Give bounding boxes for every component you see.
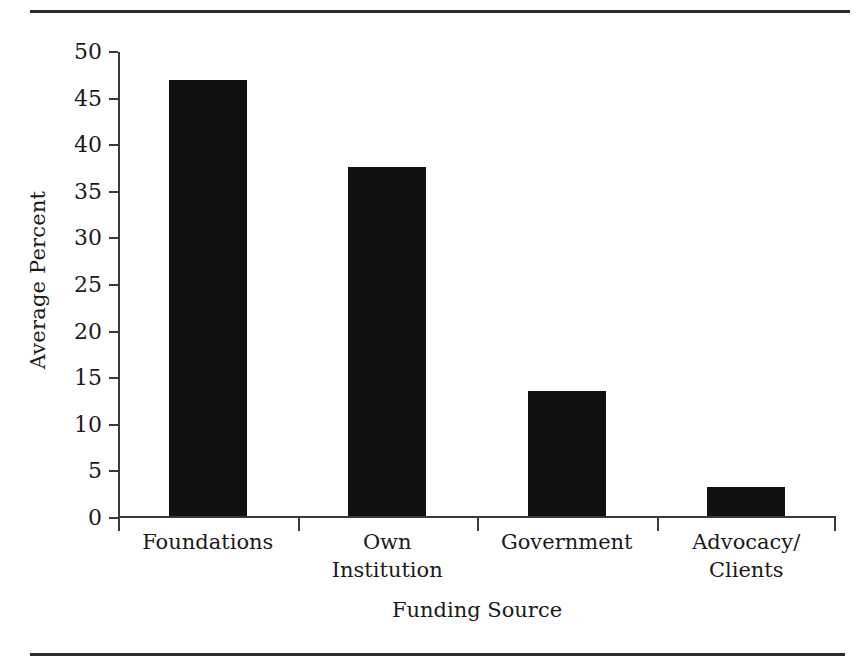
y-axis-tick-label: 15 xyxy=(72,367,109,389)
x-axis-category-label: Foundations xyxy=(118,528,298,556)
x-axis-category-label-line1: Own xyxy=(363,530,412,554)
y-axis-tick: 50 xyxy=(72,41,118,63)
y-axis-tick-mark xyxy=(109,98,118,100)
y-axis-tick: 30 xyxy=(72,227,118,249)
bar xyxy=(348,167,426,516)
y-axis-tick-label: 25 xyxy=(72,274,109,296)
y-axis-tick: 35 xyxy=(72,181,118,203)
y-axis-title: Average Percent xyxy=(26,150,50,410)
y-axis-tick-label: 40 xyxy=(72,134,109,156)
y-axis-tick: 40 xyxy=(72,134,118,156)
y-axis-tick-label: 45 xyxy=(72,88,109,110)
y-axis-tick: 5 xyxy=(72,460,118,482)
x-axis-category-labels: FoundationsOwnInstitutionGovernmentAdvoc… xyxy=(118,528,836,598)
x-axis-category-label-line2: Institution xyxy=(298,556,478,584)
y-axis-tick-mark xyxy=(109,331,118,333)
y-axis-tick: 45 xyxy=(72,88,118,110)
y-axis-tick-label: 50 xyxy=(72,41,109,63)
bar xyxy=(528,391,606,516)
y-axis-tick-mark xyxy=(109,51,118,53)
y-axis-tick: 15 xyxy=(72,367,118,389)
y-axis-tick: 0 xyxy=(72,507,118,529)
bar xyxy=(707,487,785,516)
figure-bar-chart: Average Percent 50454035302520151050 Fou… xyxy=(0,0,864,670)
y-axis-tick: 25 xyxy=(72,274,118,296)
y-axis-tick-mark xyxy=(109,377,118,379)
y-axis-tick-mark xyxy=(109,237,118,239)
bar xyxy=(169,80,247,516)
bar-slot xyxy=(118,50,298,516)
y-axis-tick-mark xyxy=(109,470,118,472)
bar-slot xyxy=(477,50,657,516)
bar-slot xyxy=(298,50,478,516)
y-axis-tick: 20 xyxy=(72,321,118,343)
y-axis-tick-label: 5 xyxy=(72,460,109,482)
page-rule-top xyxy=(30,10,850,13)
plot-area: 50454035302520151050 xyxy=(118,44,836,522)
y-axis-tick: 10 xyxy=(72,414,118,436)
y-axis-tick-mark xyxy=(109,144,118,146)
x-axis-title: Funding Source xyxy=(118,598,836,622)
y-axis-tick-mark xyxy=(109,517,118,519)
x-axis-category-label: Advocacy/Clients xyxy=(657,528,837,585)
y-axis-tick-mark xyxy=(109,424,118,426)
x-axis-category-label-line1: Government xyxy=(501,530,633,554)
x-axis-category-label-line1: Foundations xyxy=(142,530,273,554)
bar-slot xyxy=(657,50,837,516)
y-axis-tick-label: 0 xyxy=(72,507,109,529)
y-axis-tick-mark xyxy=(109,284,118,286)
y-axis-tick-label: 30 xyxy=(72,227,109,249)
y-axis-tick-label: 35 xyxy=(72,181,109,203)
y-axis-tick-mark xyxy=(109,191,118,193)
y-axis-tick-label: 20 xyxy=(72,321,109,343)
y-axis-tick-label: 10 xyxy=(72,414,109,436)
x-axis-category-label: Government xyxy=(477,528,657,556)
x-axis-category-label-line1: Advocacy/ xyxy=(692,530,800,554)
page-rule-bottom xyxy=(30,653,845,656)
x-axis-category-label: OwnInstitution xyxy=(298,528,478,585)
bar-series xyxy=(118,50,836,516)
x-axis-category-label-line2: Clients xyxy=(657,556,837,584)
